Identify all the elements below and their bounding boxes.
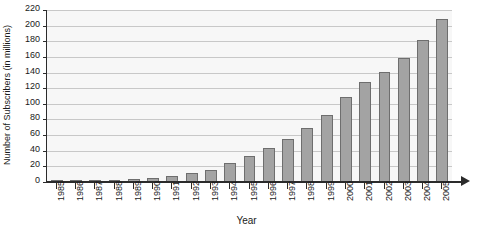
x-tick-label-text: 1987	[94, 181, 104, 201]
x-axis-title-text: Year	[226, 215, 256, 226]
x-tick-label-text: 1993	[210, 181, 220, 201]
bar	[282, 139, 294, 182]
x-tick-label-text: 2002	[384, 181, 394, 201]
bar	[224, 163, 236, 182]
x-tick-label-text: 1991	[171, 181, 181, 201]
y-tick-label: 220	[25, 4, 40, 13]
x-axis-arrow-icon	[461, 176, 470, 186]
bar	[301, 128, 313, 182]
x-tick-label-text: 1998	[306, 181, 316, 201]
x-tick-label-text: 1997	[287, 181, 297, 201]
bar-chart: Number of Subscribers (in millions) 0204…	[0, 0, 483, 232]
y-tick-label: 160	[25, 51, 40, 60]
x-axis-title: Year	[0, 215, 483, 226]
bar	[340, 97, 352, 182]
y-tick-label: 60	[30, 129, 40, 138]
y-tick-label: 180	[25, 35, 40, 44]
x-tick-label-text: 1995	[249, 181, 259, 201]
x-tick-label-text: 2000	[345, 181, 355, 201]
bar	[263, 148, 275, 182]
x-tick-label-text: 1985	[56, 181, 66, 201]
bars-layer	[47, 10, 452, 182]
plot-area	[46, 10, 452, 182]
y-tick-label: 20	[30, 160, 40, 169]
x-tick-label-text: 2001	[364, 181, 374, 201]
x-tick-label-text: 2003	[403, 181, 413, 201]
y-axis-title: Number of Subscribers (in millions)	[0, 0, 14, 190]
x-tick-label-text: 1989	[133, 181, 143, 201]
y-tick-label: 0	[35, 176, 40, 185]
x-tick-label-text: 1990	[152, 181, 162, 201]
x-tick-label-text: 2005	[441, 181, 451, 201]
y-axis-tick-labels: 020406080100120140160180200220	[14, 8, 42, 183]
bar	[321, 115, 333, 182]
x-tick-label-text: 1988	[114, 181, 124, 201]
bar	[398, 58, 410, 182]
x-tick-label-text: 2004	[422, 181, 432, 201]
x-tick-label-text: 1992	[191, 181, 201, 201]
x-tick-label-text: 1999	[326, 181, 336, 201]
bar	[359, 82, 371, 182]
y-tick-label: 120	[25, 82, 40, 91]
bar	[417, 40, 429, 182]
x-tick-label-text: 1986	[75, 181, 85, 201]
y-tick-label: 80	[30, 113, 40, 122]
bar	[379, 72, 391, 182]
y-tick-label: 140	[25, 67, 40, 76]
x-tick-label-text: 1996	[268, 181, 278, 201]
bar	[244, 156, 256, 182]
y-tick-label: 40	[30, 145, 40, 154]
x-tick-label-text: 1994	[229, 181, 239, 201]
y-tick-label: 100	[25, 98, 40, 107]
y-tick-label: 200	[25, 20, 40, 29]
y-axis-title-text: Number of Subscribers (in millions)	[2, 25, 12, 165]
bar	[436, 19, 448, 182]
